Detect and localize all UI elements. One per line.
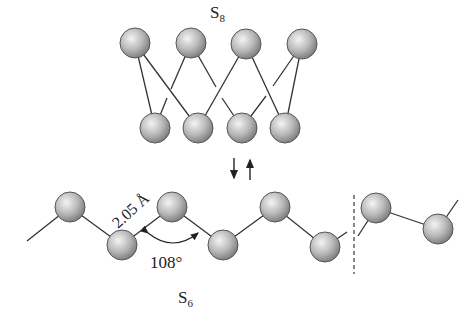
s6-atoms: [55, 192, 453, 262]
sulfur-atom: [208, 230, 238, 260]
sulfur-atom: [270, 113, 300, 143]
sulfur-atom: [310, 232, 340, 262]
s6-label: S6: [178, 288, 193, 309]
s6-bonds: [27, 200, 458, 247]
sulfur-atom: [107, 230, 137, 260]
sulfur-atom: [157, 192, 187, 222]
equilibrium-arrows: [234, 158, 250, 180]
sulfur-atom: [231, 29, 261, 59]
s8-atoms: [120, 28, 317, 143]
sulfur-atom: [423, 214, 453, 244]
sulfur-atom: [227, 113, 257, 143]
sulfur-atom: [120, 28, 150, 58]
bond-angle-label: 108°: [150, 253, 182, 272]
sulfur-allotrope-diagram: S8: [0, 0, 469, 314]
s8-label: S8: [210, 3, 225, 24]
sulfur-atom: [140, 113, 170, 143]
sulfur-atom: [176, 28, 206, 58]
bond-angle-arc: [148, 233, 198, 243]
sulfur-atom: [287, 29, 317, 59]
bond-length-label: 2.05 Å: [109, 189, 153, 231]
sulfur-atom: [55, 192, 85, 222]
sulfur-atom: [361, 193, 391, 223]
sulfur-atom: [260, 192, 290, 222]
sulfur-atom: [183, 113, 213, 143]
